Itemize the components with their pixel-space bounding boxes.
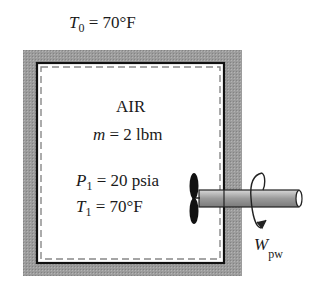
- shaft: [192, 190, 302, 207]
- system-name-label: AIR: [116, 98, 145, 115]
- ambient-temperature-label: T0 = 70°F: [69, 14, 136, 34]
- mass-label: m = 2 lbm: [93, 126, 163, 143]
- paddle-work-label: Wpw: [254, 236, 283, 260]
- temperature-label: T1 = 70°F: [76, 198, 143, 218]
- pressure-label: P1 = 20 psia: [76, 172, 159, 192]
- insulation-layer: [23, 50, 242, 276]
